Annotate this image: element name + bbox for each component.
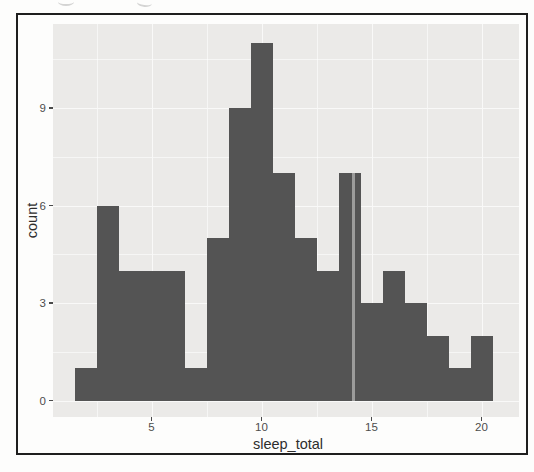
photo-artifact-smudge — [58, 0, 74, 6]
histogram-bar — [383, 271, 405, 401]
histogram-bar — [185, 368, 207, 401]
x-tick-label: 15 — [355, 421, 389, 433]
plot-panel — [53, 24, 519, 417]
histogram-bar — [405, 303, 427, 401]
y-tick-mark — [49, 205, 53, 207]
y-tick-mark — [49, 400, 53, 402]
histogram-bar — [141, 271, 163, 401]
histogram-bar — [427, 336, 449, 401]
photo-artifact-streak — [352, 173, 355, 401]
y-tick-label: 9 — [20, 102, 46, 114]
gridline-major-horizontal — [53, 108, 519, 109]
x-tick-label: 20 — [465, 421, 499, 433]
histogram-bar — [97, 206, 119, 401]
histogram-bar — [339, 173, 361, 401]
histogram-bar — [75, 368, 97, 401]
photo-artifact-smudge — [137, 0, 153, 8]
histogram-bar — [449, 368, 471, 401]
histogram-bar — [361, 303, 383, 401]
histogram-bar — [163, 271, 185, 401]
y-axis-title: count — [24, 161, 41, 281]
x-axis-title: sleep_total — [223, 436, 353, 452]
y-tick-label: 3 — [20, 297, 46, 309]
gridline-major-horizontal — [53, 401, 519, 402]
gridline-minor-horizontal — [53, 157, 519, 158]
y-tick-mark — [49, 302, 53, 304]
histogram-bar — [471, 336, 493, 401]
x-tick-label: 10 — [245, 421, 279, 433]
histogram-bar — [119, 271, 141, 401]
histogram-bar — [251, 43, 273, 401]
histogram-bar — [207, 238, 229, 401]
gridline-minor-horizontal — [53, 59, 519, 60]
screenshot-root: 51015200369 sleep_total count — [0, 0, 534, 472]
y-tick-mark — [49, 107, 53, 109]
histogram-bar — [317, 271, 339, 401]
histogram-bar — [273, 173, 295, 401]
x-tick-label: 5 — [135, 421, 169, 433]
histogram-bar — [295, 238, 317, 401]
histogram-bar — [229, 108, 251, 401]
y-tick-label: 0 — [20, 395, 46, 407]
